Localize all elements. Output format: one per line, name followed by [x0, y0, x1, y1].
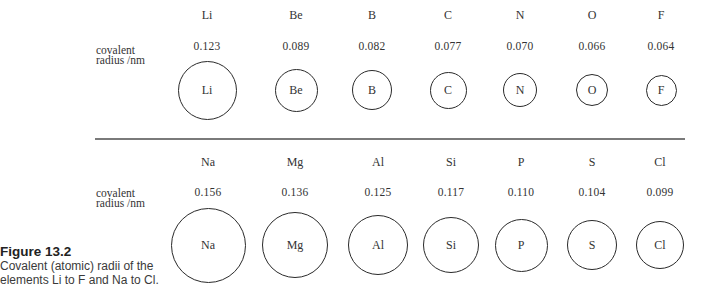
element-symbol: F [658, 8, 665, 23]
covalent-radius-value: 0.099 [647, 186, 674, 198]
figure-number: Figure 13.2 [0, 244, 159, 260]
covalent-radius-value: 0.089 [283, 40, 310, 52]
atom-circle-label: Be [289, 83, 302, 98]
atom-circle: C [430, 72, 467, 109]
element-symbol: B [368, 8, 376, 23]
element-symbol: Al [372, 155, 384, 170]
atom-circle-label: B [368, 83, 376, 98]
atom-circle: Al [348, 215, 408, 275]
atom-circle: S [567, 220, 617, 270]
atom-circle-label: C [444, 83, 452, 98]
caption-line-2: elements Li to F and Na to Cl. [0, 274, 159, 288]
element-symbol: Li [202, 8, 213, 23]
atom-circle: B [352, 70, 392, 110]
atom-circle: N [503, 73, 537, 107]
row-label-covalent-radius-2: covalent radius /nm [96, 188, 145, 208]
covalent-radius-value: 0.070 [507, 40, 534, 52]
covalent-radius-value: 0.082 [359, 40, 386, 52]
element-symbol: Cl [654, 155, 665, 170]
atom-circle: Cl [636, 221, 684, 269]
atom-circle-label: Li [202, 83, 213, 98]
atom-circle-label: Al [372, 238, 384, 253]
caption-line-1: Covalent (atomic) radii of the [0, 260, 159, 274]
element-symbol: S [589, 155, 596, 170]
covalent-radius-value: 0.066 [579, 40, 606, 52]
atom-circle-label: F [658, 83, 665, 98]
covalent-radius-value: 0.110 [508, 186, 534, 198]
row-label-line2: radius /nm [96, 55, 145, 65]
figure-caption: Figure 13.2 Covalent (atomic) radii of t… [0, 244, 159, 287]
covalent-radius-value: 0.125 [365, 186, 392, 198]
atom-circle: Li [178, 61, 237, 120]
atom-circle: Si [423, 217, 479, 273]
atom-circle-label: Si [446, 238, 456, 253]
covalent-radius-value: 0.123 [194, 40, 221, 52]
atom-circle: Be [275, 69, 318, 112]
covalent-radius-value: 0.156 [195, 186, 222, 198]
atom-circle-label: Na [201, 238, 215, 253]
atom-circle-label: Mg [287, 238, 304, 253]
atom-circle-label: N [516, 83, 525, 98]
atom-circle: Na [171, 208, 246, 283]
row-label-line2: radius /nm [96, 198, 145, 208]
covalent-radius-value: 0.104 [579, 186, 606, 198]
atom-circle: F [646, 75, 677, 106]
element-symbol: P [518, 155, 525, 170]
row-label-covalent-radius: covalent radius /nm [96, 45, 145, 65]
atom-circle: P [495, 219, 548, 272]
atom-circle: O [576, 74, 608, 106]
atom-circle: Mg [262, 212, 328, 278]
covalent-radius-value: 0.077 [435, 40, 462, 52]
covalent-radius-value: 0.117 [438, 186, 464, 198]
row-separator [95, 138, 685, 140]
element-symbol: C [444, 8, 452, 23]
element-symbol: Si [446, 155, 456, 170]
atom-circle-label: P [518, 238, 525, 253]
atom-circle-label: O [588, 83, 597, 98]
element-symbol: O [588, 8, 597, 23]
atom-circle-label: S [589, 238, 596, 253]
element-symbol: N [516, 8, 525, 23]
element-symbol: Mg [287, 155, 304, 170]
covalent-radius-value: 0.136 [282, 186, 309, 198]
covalent-radius-value: 0.064 [648, 40, 675, 52]
element-symbol: Be [289, 8, 302, 23]
element-symbol: Na [201, 155, 215, 170]
atom-circle-label: Cl [654, 238, 665, 253]
